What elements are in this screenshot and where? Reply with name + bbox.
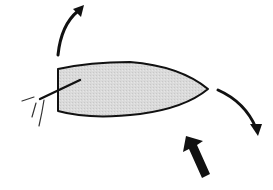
force-arrow-icon — [183, 136, 210, 178]
wake-lines — [22, 97, 44, 126]
stern-rotation-arrow-icon — [58, 5, 84, 55]
boat-turning-diagram — [0, 0, 273, 190]
bow-rotation-arrow-icon — [218, 90, 262, 136]
diagram-svg — [0, 0, 273, 190]
boat-hull — [58, 62, 208, 116]
